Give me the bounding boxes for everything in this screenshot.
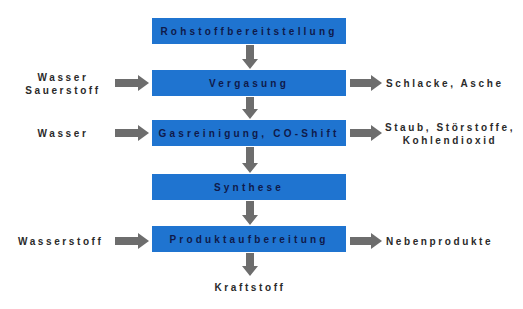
arrow-down-icon — [242, 97, 258, 119]
input-label-vergasung: Wasser Sauerstoff — [18, 71, 108, 97]
arrow-right-icon — [350, 233, 382, 249]
input-line: Wasserstoff — [18, 235, 103, 248]
arrow-right-icon — [350, 75, 382, 91]
step-label: Rohstoffbereitstellung — [160, 26, 337, 37]
arrow-right-icon — [350, 125, 382, 141]
arrow-down-icon — [242, 253, 258, 276]
step-label: Produktaufbereitung — [169, 234, 328, 245]
step-synthese: Synthese — [152, 174, 346, 200]
output-line: Kohlendioxid — [380, 134, 520, 147]
input-label-gasreinigung: Wasser — [18, 127, 108, 140]
step-produktaufbereitung: Produktaufbereitung — [152, 226, 346, 252]
input-line: Wasser — [18, 71, 108, 84]
input-label-produktaufbereitung: Wasserstoff — [18, 235, 103, 248]
output-label-gasreinigung: Staub, Störstoffe, Kohlendioxid — [380, 121, 520, 147]
final-product-text: Kraftstoff — [200, 281, 300, 294]
arrow-down-icon — [242, 45, 258, 69]
arrow-down-icon — [242, 201, 258, 225]
output-line: Staub, Störstoffe, — [380, 121, 520, 134]
step-label: Vergasung — [209, 78, 289, 89]
input-line: Wasser — [18, 127, 108, 140]
arrow-right-icon — [115, 233, 149, 249]
output-line: Nebenprodukte — [386, 235, 493, 248]
arrow-right-icon — [115, 125, 149, 141]
step-label: Gasreinigung, CO-Shift — [159, 128, 340, 139]
final-product-label: Kraftstoff — [200, 281, 300, 294]
step-rohstoffbereitstellung: Rohstoffbereitstellung — [152, 18, 346, 44]
input-line: Sauerstoff — [18, 84, 108, 97]
output-label-vergasung: Schlacke, Asche — [386, 77, 504, 90]
arrow-down-icon — [242, 147, 258, 173]
step-vergasung: Vergasung — [152, 70, 346, 96]
arrow-right-icon — [115, 75, 149, 91]
output-line: Schlacke, Asche — [386, 77, 504, 90]
step-label: Synthese — [214, 182, 284, 193]
step-gasreinigung: Gasreinigung, CO-Shift — [152, 120, 346, 146]
output-label-produktaufbereitung: Nebenprodukte — [386, 235, 493, 248]
